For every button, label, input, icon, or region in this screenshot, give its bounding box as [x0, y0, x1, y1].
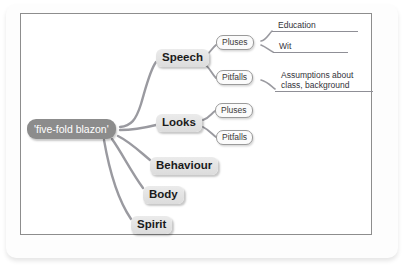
leaf-education-rule: [272, 31, 358, 32]
sub-node-speech-pitfalls-label: Pitfalls: [222, 73, 247, 82]
leaf-assumptions-rule: [275, 91, 373, 92]
leaf-wit-rule: [273, 52, 348, 53]
root-node[interactable]: 'five-fold blazon': [27, 119, 116, 139]
branch-node-behaviour[interactable]: Behaviour: [150, 157, 218, 175]
link-root-body: [112, 139, 143, 188]
branch-node-speech[interactable]: Speech: [156, 49, 209, 67]
root-node-label: 'five-fold blazon': [34, 124, 109, 135]
branch-node-spirit-label: Spirit: [137, 219, 166, 231]
leaf-assumptions-label-line2: class, background: [281, 80, 350, 90]
sub-node-speech-pluses-label: Pluses: [222, 38, 248, 47]
link-looks-pitfalls: [203, 127, 216, 137]
sub-node-looks-pluses[interactable]: Pluses: [215, 103, 253, 118]
branch-node-looks-label: Looks: [162, 117, 196, 129]
branch-node-behaviour-label: Behaviour: [156, 160, 212, 172]
branch-node-looks[interactable]: Looks: [156, 114, 202, 132]
sub-node-speech-pitfalls[interactable]: Pitfalls: [216, 70, 253, 85]
link-root-spirit: [104, 140, 131, 219]
branch-node-speech-label: Speech: [162, 52, 203, 64]
link-looks-pluses: [203, 111, 215, 120]
link-root-speech: [120, 62, 156, 127]
sub-node-looks-pitfalls[interactable]: Pitfalls: [216, 130, 253, 145]
link-pluses-wit: [261, 45, 273, 52]
branch-node-spirit[interactable]: Spirit: [131, 216, 172, 234]
sub-node-looks-pitfalls-label: Pitfalls: [222, 133, 247, 142]
branch-node-body[interactable]: Body: [143, 186, 184, 204]
leaf-wit-label: Wit: [279, 41, 291, 51]
sub-node-speech-pluses[interactable]: Pluses: [216, 35, 254, 50]
leaf-assumptions-label-line1: Assumptions about: [281, 70, 353, 80]
leaf-education-label: Education: [278, 20, 316, 30]
link-pitfalls-assumptions: [261, 80, 275, 89]
branch-node-body-label: Body: [149, 189, 178, 201]
link-pluses-education: [261, 31, 272, 41]
screenshot-root: 'five-fold blazon' Speech Looks Behaviou…: [0, 0, 410, 271]
mind-map: 'five-fold blazon' Speech Looks Behaviou…: [0, 0, 410, 271]
sub-node-looks-pluses-label: Pluses: [221, 106, 247, 115]
